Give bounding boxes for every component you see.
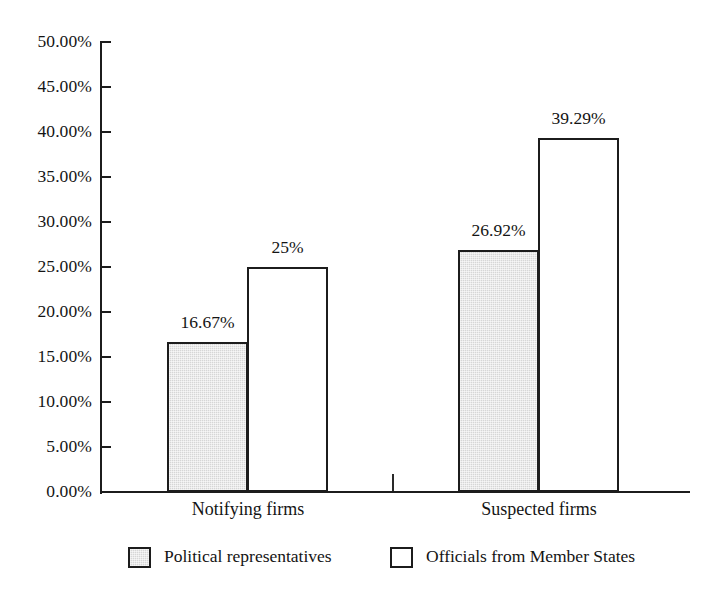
y-axis-tick-label-text: 40.00% (8, 123, 92, 141)
y-axis-tick-label: 10.00% (0, 393, 92, 411)
bar (458, 250, 539, 492)
y-axis-tick-label-text: 45.00% (8, 78, 92, 96)
legend-swatch-white-icon (390, 547, 413, 568)
y-axis-tick-label-text: 15.00% (8, 348, 92, 366)
x-axis-category-label: Suspected firms (398, 500, 680, 518)
y-axis-tick-label-text: 30.00% (8, 213, 92, 231)
y-axis-tick-label: 20.00% (0, 303, 92, 321)
y-axis-tick-label: 5.00% (0, 438, 92, 456)
legend-label-officials-from-member-states: Officials from Member States (426, 548, 635, 566)
y-axis-tick-label: 15.00% (0, 348, 92, 366)
y-axis-tick-label: 50.00% (0, 33, 92, 51)
y-axis-tick-label-text: 25.00% (8, 258, 92, 276)
legend-label-political-representatives: Political representatives (164, 548, 332, 566)
bar (167, 342, 248, 492)
y-axis-tick-label: 35.00% (0, 168, 92, 186)
bar-chart-figure: 50.00%45.00%40.00%35.00%30.00%25.00%20.0… (0, 0, 716, 604)
y-axis-tick-label: 25.00% (0, 258, 92, 276)
y-axis-tick-label-text: 35.00% (8, 168, 92, 186)
legend-item-officials-from-member-states[interactable]: Officials from Member States (390, 544, 635, 570)
legend-item-political-representatives[interactable]: Political representatives (128, 544, 332, 570)
bar-value-label: 25% (229, 239, 346, 257)
y-axis-tick-label-text: 20.00% (8, 303, 92, 321)
y-axis-tick-label-text: 0.00% (8, 483, 92, 501)
bar (538, 138, 619, 492)
y-axis-tick-label: 0.00% (0, 483, 92, 501)
bar (247, 267, 328, 492)
y-axis-tick-label: 40.00% (0, 123, 92, 141)
cut-off-caption: …… ………… …… …… … …… (16, 592, 187, 600)
x-axis-category-label: Notifying firms (107, 500, 389, 518)
legend-swatch-gray-icon (128, 547, 151, 568)
y-axis-tick-label-text: 5.00% (8, 438, 92, 456)
chart-legend: Political representatives Officials from… (0, 544, 716, 578)
bar-value-label: 39.29% (520, 110, 637, 128)
y-axis-tick-label: 30.00% (0, 213, 92, 231)
y-axis-tick-label-text: 10.00% (8, 393, 92, 411)
y-axis-tick-label: 45.00% (0, 78, 92, 96)
y-axis-tick-label-text: 50.00% (8, 33, 92, 51)
